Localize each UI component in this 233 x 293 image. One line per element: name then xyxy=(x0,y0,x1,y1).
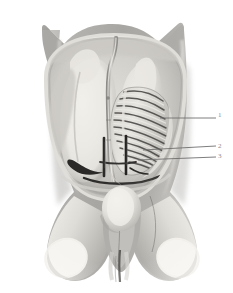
callout-label-1: 1 xyxy=(218,112,222,119)
anatomical-illustration xyxy=(0,0,233,293)
anatomical-figure: 1 2 3 xyxy=(0,0,233,293)
callout-label-3: 3 xyxy=(218,153,222,160)
callout-label-2: 2 xyxy=(218,143,222,150)
